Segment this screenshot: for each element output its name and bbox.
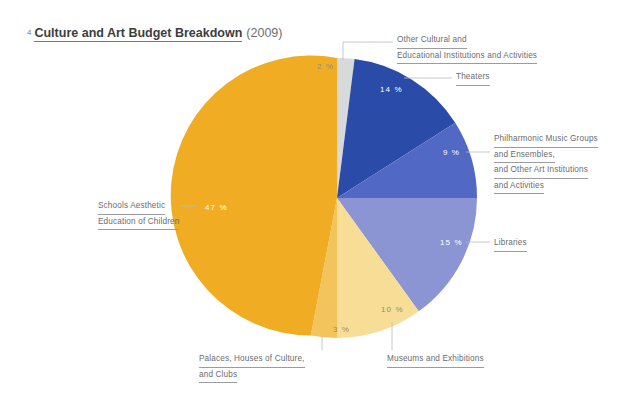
- callout-philharmonic-line1: Philharmonic Music Groups: [494, 132, 598, 148]
- callout-label-libraries: Libraries: [494, 236, 527, 252]
- callout-label-schools: Schools Aesthetic Education of Children: [98, 199, 179, 230]
- callout-schools-line1: Schools Aesthetic: [98, 199, 165, 215]
- callout-theaters-line1: Theaters: [456, 70, 490, 86]
- leader-line-other: [343, 42, 393, 60]
- callout-label-theaters: Theaters: [456, 70, 490, 86]
- slice-value-schools: 47 %: [205, 203, 228, 212]
- callout-museums-line1: Museums and Exhibitions: [387, 352, 484, 368]
- callout-philharmonic-line3: and Other Art Institutions: [494, 163, 588, 179]
- callout-label-museums: Museums and Exhibitions: [387, 352, 484, 368]
- slice-value-palaces: 3 %: [333, 325, 350, 334]
- callout-label-palaces: Palaces, Houses of Culture, and Clubs: [199, 352, 305, 383]
- callout-palaces-line1: Palaces, Houses of Culture,: [199, 352, 305, 368]
- callout-libraries-line1: Libraries: [494, 236, 527, 252]
- callout-other-line2: Educational Institutions and Activities: [397, 49, 537, 65]
- pie-slice-schools[interactable]: [171, 56, 337, 336]
- callout-label-philharmonic: Philharmonic Music Groups and Ensembles,…: [494, 132, 598, 194]
- callout-label-other: Other Cultural and Educational Instituti…: [397, 33, 537, 64]
- slice-value-museums: 10 %: [381, 305, 404, 314]
- slice-value-philharmonic: 9 %: [443, 148, 460, 157]
- slice-value-theaters: 14 %: [380, 85, 403, 94]
- pie-chart: 2 % 14 % 9 % 15 % 10 % 3 % 47 % Other Cu…: [0, 0, 631, 400]
- callout-palaces-line2: and Clubs: [199, 368, 237, 384]
- callout-schools-line2: Education of Children: [98, 215, 179, 231]
- callout-other-line1: Other Cultural and: [397, 33, 467, 49]
- callout-philharmonic-line2: and Ensembles,: [494, 148, 555, 164]
- callout-philharmonic-line4: and Activities: [494, 179, 544, 195]
- slice-value-libraries: 15 %: [440, 238, 463, 247]
- slice-value-other: 2 %: [317, 62, 334, 71]
